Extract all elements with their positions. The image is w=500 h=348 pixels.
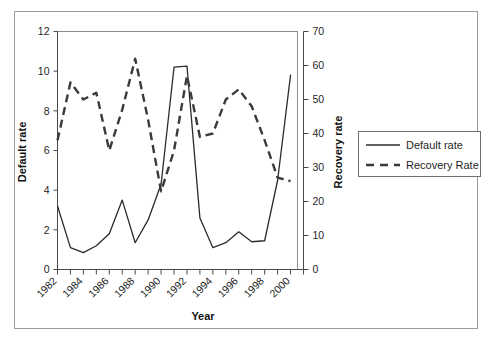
right-axis-tick-labels: 010203040506070 xyxy=(313,25,325,275)
x-axis-tick-label: 1990 xyxy=(137,274,162,299)
series-line-recovery-rate xyxy=(58,59,291,192)
chart-legend: Default rate Recovery Rate xyxy=(359,132,481,177)
right-axis-ticks xyxy=(304,32,309,270)
x-axis-tick-label: 1982 xyxy=(34,274,59,299)
y-axis-left-title: Default rate xyxy=(16,122,28,183)
x-axis-title: Year xyxy=(191,310,215,322)
left-axis-tick-label: 10 xyxy=(38,65,50,77)
x-axis-tick-label: 1992 xyxy=(163,274,188,299)
right-axis-tick-label: 60 xyxy=(313,59,325,71)
right-axis-tick-label: 70 xyxy=(313,25,325,37)
legend-label-default-rate: Default rate xyxy=(406,139,463,151)
x-axis-tick-labels: 1982198419861988199019921994199619982000 xyxy=(34,274,292,299)
left-axis-ticks xyxy=(54,32,58,270)
x-axis-tick-label: 1986 xyxy=(86,274,111,299)
left-axis-tick-label: 8 xyxy=(44,105,50,117)
right-axis-tick-label: 10 xyxy=(313,229,325,241)
x-axis-ticks xyxy=(58,270,304,275)
legend-label-recovery-rate: Recovery Rate xyxy=(406,159,479,171)
x-axis-tick-label: 1998 xyxy=(241,274,266,299)
x-axis-tick-label: 1994 xyxy=(189,274,214,299)
right-axis-tick-label: 40 xyxy=(313,127,325,139)
left-axis-tick-label: 4 xyxy=(44,184,50,196)
right-axis-tick-label: 20 xyxy=(313,195,325,207)
left-axis-tick-label: 0 xyxy=(44,263,50,275)
chart-canvas: 024681012 010203040506070 19821984198619… xyxy=(0,0,500,348)
y-axis-right-title: Recovery rate xyxy=(332,116,344,189)
left-axis-tick-label: 12 xyxy=(38,25,50,37)
right-axis-tick-label: 50 xyxy=(313,93,325,105)
right-axis-tick-label: 30 xyxy=(313,161,325,173)
x-axis-tick-label: 1984 xyxy=(60,274,85,299)
x-axis-tick-label: 1988 xyxy=(112,274,137,299)
right-axis-tick-label: 0 xyxy=(313,263,319,275)
chart-figure: 024681012 010203040506070 19821984198619… xyxy=(0,0,500,348)
left-axis-tick-label: 2 xyxy=(44,224,50,236)
left-axis-tick-label: 6 xyxy=(44,144,50,156)
x-axis-tick-label: 1996 xyxy=(215,274,240,299)
x-axis-tick-label: 2000 xyxy=(267,274,292,299)
left-axis-tick-labels: 024681012 xyxy=(38,25,50,275)
